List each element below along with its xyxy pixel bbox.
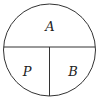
circle-diagram: A P B	[0, 0, 99, 107]
region-label-p: P	[22, 64, 32, 79]
region-label-a: A	[44, 19, 54, 34]
region-label-b: B	[67, 64, 78, 79]
